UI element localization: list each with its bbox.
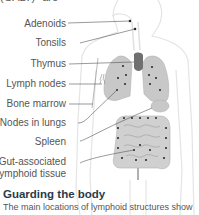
label-nodes-in-lungs: Nodes in lungs [0,117,66,128]
label-tonsils: Tonsils [35,37,66,48]
thymus [134,53,143,71]
label-lymph-nodes: Lymph nodes [6,78,66,89]
caption-title: Guarding the body [3,188,105,200]
label-spleen: Spleen [35,136,66,147]
label-adenoids: Adenoids [24,18,66,29]
label-bone-marrow: Bone marrow [7,98,66,109]
label-lymphoid-tissue: lymphoid tissue [0,168,66,179]
caption-text: The main locations of lymphoid structure… [3,202,193,212]
label-thymus: Thymus [30,58,66,69]
right-lung [142,56,169,103]
large-intestine [113,116,170,169]
body-outline [76,0,194,215]
label-gut-associated: Gut-associated [0,156,66,167]
spleen [151,100,169,112]
